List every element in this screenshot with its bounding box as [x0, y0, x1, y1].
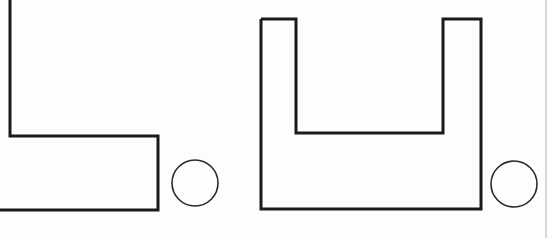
figure-svg — [0, 0, 552, 238]
figure-canvas — [0, 0, 552, 238]
figure-background — [0, 0, 552, 238]
